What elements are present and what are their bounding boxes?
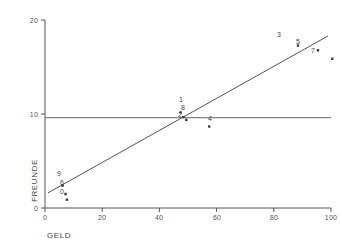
- x-tick-label-60: 60: [213, 214, 221, 221]
- point-label-1: 1: [179, 96, 183, 103]
- x-tick-label-20: 20: [98, 214, 106, 221]
- x-tick-label-40: 40: [155, 214, 163, 221]
- data-point-marker: [317, 49, 319, 51]
- x-tick-label-0: 0: [43, 214, 47, 221]
- scatter-chart: 0 10 20 0 20 40 60 80 100 1 8 2 4 3 5 7 …: [0, 0, 342, 249]
- y-axis-title: FREUNDE: [30, 159, 39, 202]
- x-tick-label-100: 100: [325, 214, 337, 221]
- point-label-9: 9: [57, 170, 61, 177]
- regression-line: [48, 36, 328, 193]
- data-point-marker: [66, 199, 68, 201]
- y-tick-label-10: 10: [26, 111, 38, 118]
- point-label-4: 4: [208, 115, 212, 122]
- data-point-marker: [182, 116, 184, 118]
- point-label-2: 2: [178, 111, 182, 118]
- point-label-5: 5: [296, 38, 300, 45]
- point-label-0: 0: [60, 188, 64, 195]
- y-axis-ticks: [41, 20, 45, 208]
- x-axis-title: GELD: [47, 231, 71, 240]
- point-label-8: 8: [181, 104, 185, 111]
- data-point-marker: [185, 119, 187, 121]
- x-tick-label-80: 80: [270, 214, 278, 221]
- data-point-marker: [331, 58, 333, 60]
- plot-area: [0, 0, 342, 249]
- y-tick-label-0: 0: [26, 205, 38, 212]
- x-axis-ticks: [45, 208, 331, 212]
- point-label-3: 3: [277, 31, 281, 38]
- data-markers: [61, 44, 333, 201]
- point-label-7: 7: [311, 47, 315, 54]
- point-label-6: 6: [60, 179, 64, 186]
- data-point-marker: [64, 193, 66, 195]
- y-tick-label-20: 20: [26, 17, 38, 24]
- data-point-marker: [208, 125, 210, 127]
